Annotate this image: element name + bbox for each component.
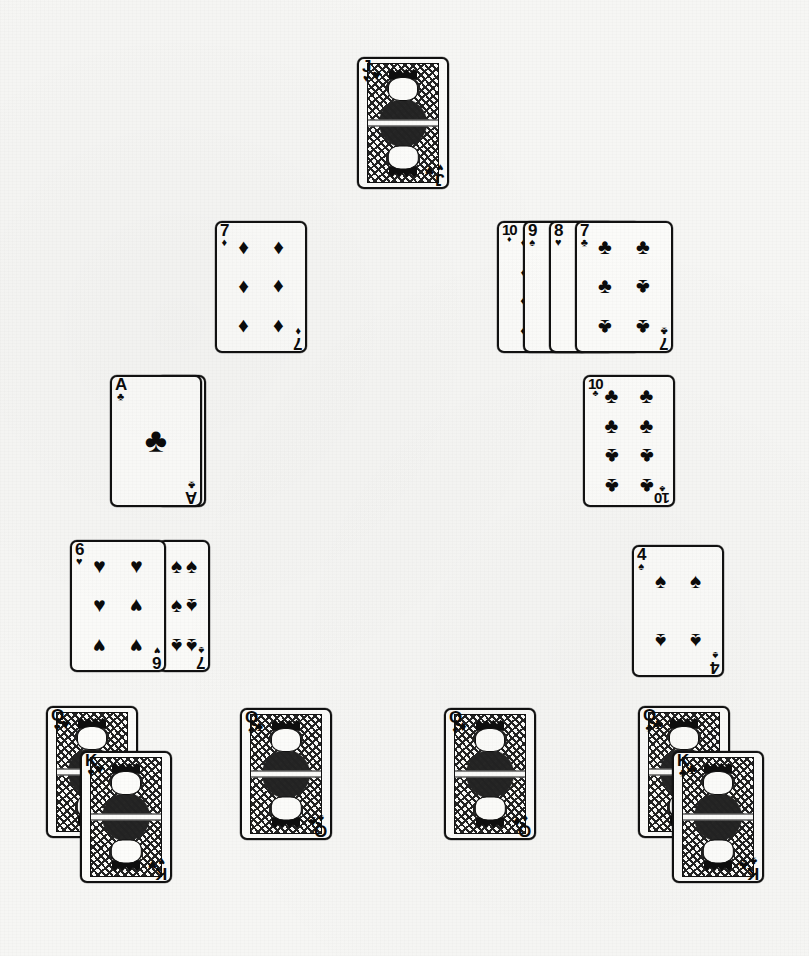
card-index-bottom-right: 10♣	[655, 484, 670, 504]
card-index-bottom-right: A♣	[186, 481, 197, 504]
face-portrait-head	[388, 77, 419, 101]
card-suit-icon: ♥	[363, 74, 370, 83]
card-suit-icon: ♣	[646, 723, 653, 732]
card-pip: ♠	[171, 556, 182, 577]
face-portrait-head	[475, 796, 506, 820]
playing-card[interactable]: ♣A♣A♣	[110, 375, 202, 507]
card-index-bottom-right: Q♠	[315, 814, 327, 837]
face-portrait-head	[111, 839, 142, 863]
card-pip-grid: ♥♥♥♥♥♥	[81, 547, 155, 665]
card-suit-icon: ♥	[158, 857, 165, 866]
card-index-top-left: 10♣	[588, 378, 603, 398]
card-index-top-left: K♣	[677, 754, 688, 777]
card-pip: ♣	[598, 316, 612, 337]
playing-card[interactable]: ♦♦Q♦Q♦	[444, 708, 536, 840]
playing-card[interactable]: ♣♣♣♣♣♣7♣7♣	[575, 221, 673, 353]
card-pip: ♠	[186, 635, 197, 656]
card-pip: ♦	[238, 316, 249, 337]
face-suit-icon: ♥	[425, 162, 434, 179]
card-suit-icon: ♠	[248, 725, 254, 734]
card-rank: 7	[294, 336, 302, 350]
playing-card[interactable]: ♣♣K♣K♣	[672, 751, 764, 883]
card-pip: ♣	[636, 237, 650, 258]
card-index-top-left: K♥	[85, 754, 96, 777]
card-index-top-left: 9♠	[528, 224, 536, 247]
card-suit-icon: ♣	[581, 238, 588, 247]
card-face-artwork: ♥♥	[90, 757, 162, 877]
face-portrait-head	[669, 726, 700, 750]
card-index-bottom-right: 6♥	[153, 646, 161, 669]
card-pip: ♣	[640, 386, 654, 407]
card-suit-icon: ♥	[76, 557, 83, 566]
card-pip: ♥	[130, 635, 142, 656]
card-suit-icon: ♥	[437, 163, 444, 172]
playing-card[interactable]: ♦♦♦♦♦♦7♦7♦	[215, 221, 307, 353]
card-pip: ♠	[186, 595, 197, 616]
card-index-bottom-right: K♣	[748, 857, 759, 880]
card-pip: ♣	[640, 475, 654, 496]
face-divider-band	[455, 771, 525, 778]
card-pip: ♣	[605, 386, 619, 407]
face-portrait-head	[388, 145, 419, 169]
card-pip: ♣	[640, 445, 654, 466]
card-pip-grid: ♠♠♠♠♠♠	[169, 547, 199, 665]
card-pip: ♦	[238, 237, 249, 258]
card-pip: ♠	[186, 556, 197, 577]
card-pip: ♠	[655, 571, 666, 592]
card-pip: ♥	[130, 556, 142, 577]
card-face-artwork: ♦♦	[454, 714, 526, 834]
card-index-bottom-right: K♥	[156, 857, 167, 880]
card-index-bottom-right: 4♠	[711, 651, 719, 674]
playing-card[interactable]: ♥♥K♥K♥	[80, 751, 172, 883]
playing-card[interactable]: ♥♥♥♥♥♥6♥6♥	[70, 540, 166, 672]
card-suit-icon: ♥	[555, 238, 562, 247]
card-pip: ♠	[690, 571, 701, 592]
card-suit-icon: ♣	[679, 768, 686, 777]
playing-card[interactable]: ♠♠♠♠4♠4♠	[632, 545, 724, 677]
card-pip: ♥	[93, 595, 105, 616]
card-rank: 10	[655, 492, 670, 504]
card-rank: 6	[153, 655, 161, 669]
card-suit-icon: ♥	[154, 646, 161, 655]
face-divider-band	[91, 814, 161, 821]
playing-card[interactable]: ♣♣♣♣♣♣♣♣10♣10♣	[583, 375, 675, 507]
playing-card[interactable]: ♠♠Q♠Q♠	[240, 708, 332, 840]
card-suit-icon: ♦	[522, 814, 528, 823]
card-index-top-left: Q♣	[643, 709, 655, 732]
face-portrait-head	[475, 728, 506, 752]
card-pip: ♣	[605, 445, 619, 466]
card-index-top-left: 4♠	[637, 548, 645, 571]
card-face-artwork: ♣♣	[682, 757, 754, 877]
card-suit-icon: ♦	[295, 327, 301, 336]
card-index-top-left: J♥	[362, 60, 370, 83]
card-index-top-left: 7♦	[220, 224, 228, 247]
card-index-bottom-right: J♥	[436, 163, 444, 186]
card-pip: ♣	[605, 475, 619, 496]
face-divider-band	[683, 814, 753, 821]
card-pip: ♣	[636, 276, 650, 297]
card-suit-icon: ♣	[660, 484, 666, 491]
face-portrait-head	[111, 771, 142, 795]
card-pip: ♦	[273, 276, 284, 297]
card-rank: K	[748, 866, 759, 880]
card-index-top-left: 8♥	[554, 224, 562, 247]
card-pip: ♣	[598, 237, 612, 258]
card-pip: ♣	[605, 416, 619, 437]
card-suit-icon: ♣	[660, 327, 667, 336]
card-suit-icon: ♣	[592, 390, 598, 397]
card-suit-icon: ♥	[87, 768, 94, 777]
card-rank: 7	[660, 336, 668, 350]
face-portrait-head	[703, 771, 734, 795]
card-suit-icon: ♠	[529, 238, 535, 247]
card-pip-grid: ♣♣♣♣♣♣	[586, 228, 662, 346]
card-index-top-left: 6♥	[75, 543, 83, 566]
card-pip: ♦	[273, 316, 284, 337]
card-suit-icon: ♣	[188, 481, 195, 490]
card-index-bottom-right: 7♣	[660, 327, 668, 350]
card-index-bottom-right: Q♦	[519, 814, 531, 837]
card-suit-icon: ♠	[638, 562, 644, 571]
playing-card[interactable]: ♥♥J♥J♥	[357, 57, 449, 189]
card-pip: ♥	[93, 556, 105, 577]
face-portrait-head	[703, 839, 734, 863]
card-pip: ♠	[690, 630, 701, 651]
